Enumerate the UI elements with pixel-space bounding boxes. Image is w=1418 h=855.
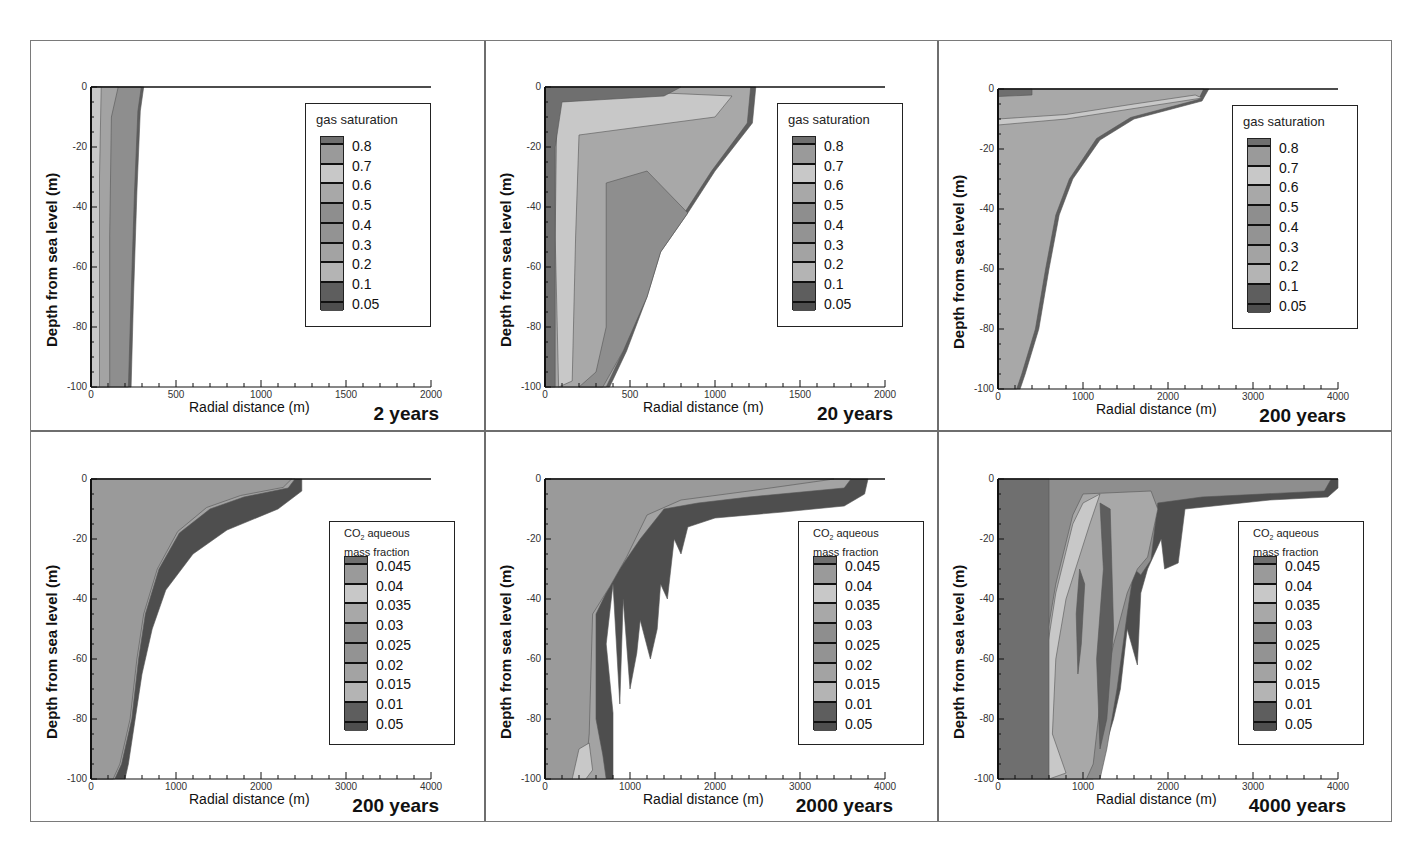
legend-swatch [1254,703,1276,723]
legend-title: gas saturation [316,112,398,127]
x-tick-label: 1500 [785,389,815,400]
legend-value: 0.04 [1285,578,1312,594]
y-tick-label: 0 [61,81,87,92]
legend-swatch [1248,226,1270,246]
legend-swatch [1248,186,1270,206]
y-tick-label: -80 [515,713,541,724]
x-tick-label: 4000 [1323,391,1353,402]
legend-swatch [345,703,367,723]
legend-value: 0.035 [376,597,411,613]
y-tick-label: -40 [515,593,541,604]
legend-color-bar [344,556,368,730]
legend-swatch [345,604,367,624]
chart-panel-p3: 0-20-40-60-80-10001000200030004000Depth … [938,41,1390,429]
legend-swatch [1254,624,1276,644]
legend-value: 0.015 [845,676,880,692]
legend-color-bar [1253,556,1277,730]
chart-panel-p5: 0-20-40-60-80-10001000200030004000Depth … [485,431,937,819]
y-tick-label: -20 [61,533,87,544]
x-tick-label: 3000 [331,781,361,792]
legend-value: 0.03 [1285,617,1312,633]
legend-swatch [814,723,836,731]
legend-swatch [345,557,367,565]
time-label: 200 years [352,795,439,817]
legend-value: 0.05 [1279,298,1306,314]
legend-swatch [321,283,343,303]
legend-swatch [1248,265,1270,285]
legend-swatch [321,263,343,283]
legend-value: 0.05 [824,296,851,312]
legend-value: 0.4 [1279,219,1298,235]
y-tick-label: -80 [968,323,994,334]
legend-swatch [793,145,815,165]
x-axis-label: Radial distance (m) [1096,401,1217,417]
legend-value: 0.1 [1279,278,1298,294]
legend-value: 0.8 [352,138,371,154]
legend-swatch [345,565,367,585]
y-tick-label: 0 [515,473,541,484]
legend-swatch [1248,206,1270,226]
legend-value: 0.8 [1279,140,1298,156]
x-tick-label: 0 [76,781,106,792]
legend-swatch [345,624,367,644]
legend-value: 0.2 [824,256,843,272]
y-tick-label: 0 [968,83,994,94]
y-tick-label: -40 [968,593,994,604]
y-tick-label: -20 [968,533,994,544]
legend-value: 0.2 [1279,258,1298,274]
y-tick-label: -80 [968,713,994,724]
legend-swatch [321,303,343,311]
legend-swatch [1254,683,1276,703]
legend-value: 0.04 [845,578,872,594]
y-tick-label: -40 [61,593,87,604]
time-label: 20 years [817,403,893,425]
legend-value: 0.3 [352,237,371,253]
y-axis-label: Depth from sea level (m) [497,565,514,739]
x-tick-label: 1000 [1068,391,1098,402]
legend-swatch [345,664,367,684]
legend-swatch [1248,139,1270,147]
legend-color-bar [1247,138,1271,312]
x-tick-label: 4000 [870,781,900,792]
x-tick-label: 4000 [1323,781,1353,792]
legend-value: 0.045 [845,558,880,574]
legend-value: 0.6 [352,177,371,193]
x-tick-label: 500 [615,389,645,400]
chart-panel-p4: 0-20-40-60-80-10001000200030004000Depth … [31,431,483,819]
legend-value: 0.3 [1279,239,1298,255]
y-tick-label: 0 [61,473,87,484]
legend-swatch [793,165,815,185]
legend-value: 0.3 [824,237,843,253]
legend-value: 0.01 [376,696,403,712]
y-tick-label: -80 [515,321,541,332]
x-tick-label: 1000 [1068,781,1098,792]
y-tick-label: -20 [515,533,541,544]
x-tick-label: 1000 [161,781,191,792]
legend-swatch [1254,557,1276,565]
legend-swatch [321,137,343,145]
legend-swatch [793,184,815,204]
legend-swatch [814,557,836,565]
x-tick-label: 0 [983,781,1013,792]
y-tick-label: -60 [515,261,541,272]
legend-swatch [321,165,343,185]
y-axis-label: Depth from sea level (m) [950,175,967,349]
legend-color-bar [813,556,837,730]
x-tick-label: 3000 [1238,781,1268,792]
x-axis-label: Radial distance (m) [189,791,310,807]
legend-value: 0.01 [845,696,872,712]
legend-value: 0.02 [376,657,403,673]
legend-gas-saturation: gas saturation0.80.70.60.50.40.30.20.10.… [1232,105,1358,329]
x-axis-label: Radial distance (m) [643,791,764,807]
x-tick-label: 500 [161,389,191,400]
legend-value: 0.7 [352,158,371,174]
x-tick-label: 0 [530,389,560,400]
legend-value: 0.5 [1279,199,1298,215]
legend-swatch [1254,565,1276,585]
y-tick-label: -40 [968,203,994,214]
legend-swatch [321,204,343,224]
legend-gas-saturation: gas saturation0.80.70.60.50.40.30.20.10.… [777,103,903,327]
legend-value: 0.5 [352,197,371,213]
legend-swatch [1248,285,1270,305]
legend-value: 0.05 [352,296,379,312]
